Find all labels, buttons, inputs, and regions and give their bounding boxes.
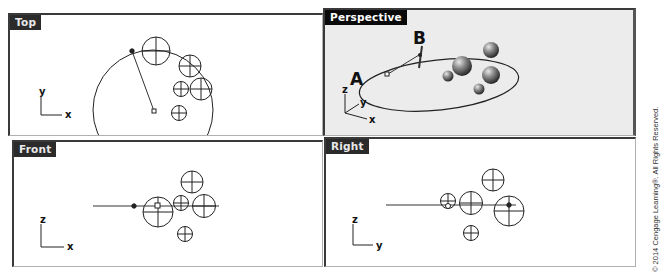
perspective-circle-curve bbox=[357, 52, 521, 118]
perspective-axis-z-label: z bbox=[342, 84, 348, 95]
top-axis-x-label: x bbox=[65, 109, 72, 120]
perspective-sphere-5 bbox=[474, 84, 485, 95]
point-label-a: A bbox=[350, 69, 364, 89]
copyright-notice: © 2014 Cengage Learning®. All Rights Res… bbox=[651, 107, 660, 272]
perspective-axis-y-label: y bbox=[360, 97, 367, 108]
top-circle-curve bbox=[93, 50, 213, 136]
perspective-sphere-4 bbox=[443, 71, 454, 82]
top-sphere-2 bbox=[179, 55, 201, 77]
top-view-scene: y x bbox=[10, 15, 323, 136]
right-axis-z-label: z bbox=[352, 214, 358, 225]
right-sphere-3 bbox=[482, 169, 504, 191]
point-label-b: B bbox=[413, 28, 426, 48]
perspective-axis-x-label: x bbox=[369, 114, 376, 125]
front-axis-x-label: x bbox=[67, 241, 74, 252]
viewport-front[interactable]: z x Front bbox=[12, 140, 323, 267]
front-sphere-4 bbox=[193, 195, 216, 218]
viewport-label-perspective[interactable]: Perspective bbox=[325, 10, 407, 25]
viewport-perspective[interactable]: A B z y x Perspective bbox=[323, 8, 636, 136]
front-axis-z-label: z bbox=[40, 214, 46, 225]
front-view-scene: z x bbox=[14, 142, 323, 267]
front-sphere-3 bbox=[174, 196, 189, 211]
right-view-scene: z y bbox=[326, 139, 636, 267]
perspective-sphere-1 bbox=[483, 42, 499, 58]
viewport-right[interactable]: z y Right bbox=[324, 137, 636, 267]
front-sphere-1 bbox=[143, 197, 173, 227]
perspective-sphere-2 bbox=[452, 56, 472, 76]
top-sphere-4 bbox=[174, 82, 189, 97]
right-sphere-4 bbox=[494, 196, 524, 226]
right-axis-y-label: y bbox=[376, 240, 383, 251]
top-sphere-5 bbox=[172, 106, 187, 121]
viewport-label-right[interactable]: Right bbox=[326, 139, 369, 154]
viewport-label-front[interactable]: Front bbox=[14, 142, 56, 157]
perspective-view-scene: A B z y x bbox=[325, 10, 636, 136]
front-sphere-2 bbox=[181, 171, 203, 193]
viewport-top[interactable]: y x Top bbox=[8, 13, 323, 136]
viewport-label-top[interactable]: Top bbox=[10, 15, 41, 30]
top-axis-y-label: y bbox=[39, 86, 46, 97]
right-sphere-2 bbox=[460, 192, 483, 215]
right-sphere-5 bbox=[464, 226, 479, 241]
front-sphere-5 bbox=[178, 227, 193, 242]
perspective-sphere-3 bbox=[482, 66, 500, 84]
top-sphere-1 bbox=[142, 37, 170, 65]
top-sphere-3 bbox=[190, 78, 212, 100]
